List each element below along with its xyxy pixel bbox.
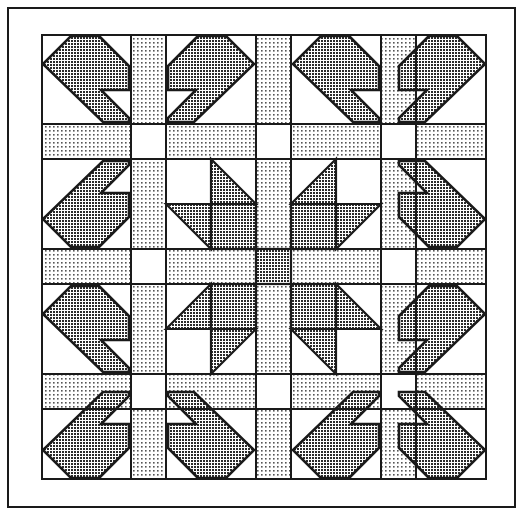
sashing-bar (416, 249, 487, 284)
sashing-bar (41, 124, 131, 159)
sashing-bar (291, 124, 381, 159)
geese-square (291, 284, 336, 329)
sashing-bar (256, 159, 291, 249)
sashing-bar (416, 124, 487, 159)
center-square (256, 249, 291, 284)
geese-square (211, 284, 256, 329)
sashing-bar (166, 249, 256, 284)
sashing-bar (41, 249, 131, 284)
sashing-bar (131, 34, 166, 124)
sashing-bar (291, 249, 381, 284)
sashing-bar (166, 124, 256, 159)
quilt-svg (41, 34, 487, 480)
sashing-bar (256, 284, 291, 374)
quilt-block-diagram (41, 34, 487, 480)
geese-square (211, 204, 256, 249)
sashing-bar (131, 284, 166, 374)
sashing-bar (256, 34, 291, 124)
sashing-bar (256, 409, 291, 480)
sashing-bar (131, 409, 166, 480)
diagram-page: Quilt Block Pattern Diagram Symmetric pi… (0, 0, 524, 528)
sashing-bar (131, 159, 166, 249)
geese-square (291, 204, 336, 249)
